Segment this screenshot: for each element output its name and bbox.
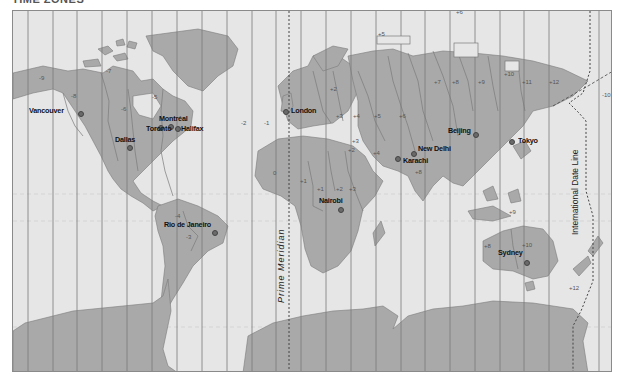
city-label: Halifax (181, 124, 203, 133)
city-marker-dot (338, 207, 344, 213)
city-marker-dot (127, 145, 133, 151)
time-zone-label: -9 (39, 75, 44, 81)
time-zone-label: +4 (353, 113, 360, 119)
time-zone-label: +2 (336, 186, 343, 192)
city-label: Toronto (146, 124, 171, 133)
time-zone-label: +4 (373, 150, 380, 156)
city-label: New Delhi (418, 144, 451, 153)
time-zone-label: +9 (478, 79, 485, 85)
city-label: Sydney (498, 248, 523, 257)
city-label: Nairobi (319, 196, 343, 205)
time-zone-label: 0 (273, 170, 276, 176)
time-zone-label: +6 (456, 10, 463, 15)
time-zone-label: +10 (522, 242, 532, 248)
time-zone-label: +1 (300, 178, 307, 184)
time-zone-label: -8 (71, 93, 76, 99)
time-zone-label: +1 (317, 186, 324, 192)
time-zone-map: Prime Meridian International Date Line -… (12, 10, 612, 372)
city-label: Dallas (115, 135, 135, 144)
time-zone-label: +9 (509, 209, 516, 215)
city-label: Beijing (448, 126, 471, 135)
city-marker-dot (411, 151, 417, 157)
time-zone-label: -6 (121, 106, 126, 112)
city-label: Tokyo (518, 136, 538, 145)
city-marker-dot (395, 156, 401, 162)
time-zone-label: +2 (330, 86, 337, 92)
time-zone-label: +8 (415, 169, 422, 175)
city-label: London (291, 106, 316, 115)
city-marker-dot (524, 260, 530, 266)
map-title: TIME ZONES (12, 0, 84, 5)
time-zone-label: +3 (352, 138, 359, 144)
time-zone-label: -10 (602, 92, 611, 98)
time-zone-label: +3 (336, 113, 343, 119)
time-zone-label: +5 (378, 31, 385, 37)
time-zone-label: +12 (569, 285, 579, 291)
time-zone-label: -7 (106, 68, 111, 74)
time-zone-label: -3 (186, 234, 191, 240)
time-zone-label: +12 (549, 79, 559, 85)
time-zone-label: +10 (504, 71, 514, 77)
time-zone-label: -5 (152, 94, 157, 100)
time-zone-label: +8 (452, 79, 459, 85)
city-marker-dot (473, 132, 479, 138)
time-zone-label: +2 (348, 147, 355, 153)
time-zone-label: +8 (484, 243, 491, 249)
time-zone-label: +6 (399, 113, 406, 119)
city-marker-dot (78, 111, 84, 117)
map-graphics (13, 11, 612, 372)
city-label: Montréal (159, 114, 188, 123)
city-label: Karachi (403, 156, 428, 165)
city-marker-dot (509, 139, 515, 145)
time-zone-label: +11 (522, 79, 532, 85)
time-zone-label: +5 (374, 113, 381, 119)
city-label: Rio de Janeiro (164, 220, 211, 229)
time-zone-label: +3 (349, 186, 356, 192)
city-label: Vancouver (29, 106, 64, 115)
time-zone-label: -2 (241, 120, 246, 126)
time-zone-label: -1 (264, 120, 269, 126)
city-marker-dot (283, 109, 289, 115)
land (13, 29, 603, 372)
time-zone-label: +7 (434, 79, 441, 85)
city-marker-dot (212, 230, 218, 236)
date-line-label: International Date Line (570, 149, 580, 235)
time-zone-label: -4 (175, 213, 180, 219)
prime-meridian-label: Prime Meridian (276, 228, 286, 303)
